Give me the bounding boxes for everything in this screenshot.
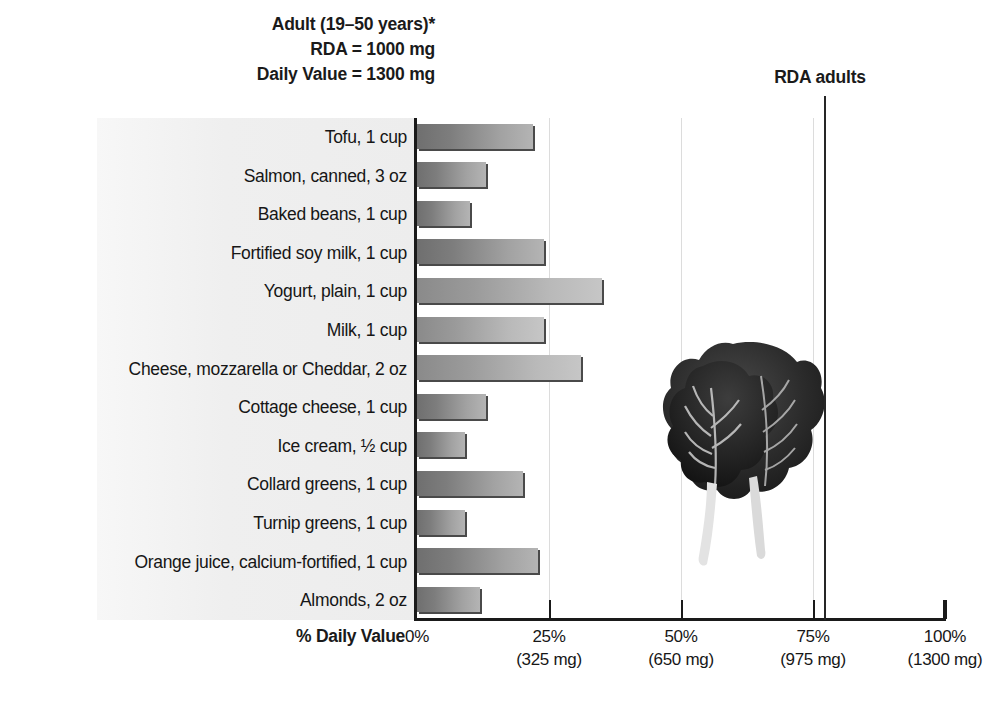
x-tick-75 (813, 600, 815, 619)
bar-baked-beans-1-cup (417, 201, 470, 226)
chart-header: Adult (19–50 years)* RDA = 1000 mg Daily… (60, 12, 435, 87)
calcium-daily-value-chart: Adult (19–50 years)* RDA = 1000 mg Daily… (0, 0, 1006, 705)
x-tick-milligrams: (1300 mg) (885, 648, 1005, 671)
bar-yogurt-plain-1-cup (417, 278, 602, 303)
x-axis-line (414, 618, 945, 621)
bar-cottage-cheese-1-cup (417, 394, 486, 419)
header-line-adult: Adult (19–50 years)* (60, 12, 435, 37)
bar-collard-greens-1-cup (417, 471, 523, 496)
bar-ice-cream-cup (417, 432, 465, 457)
x-tick-milligrams: (325 mg) (489, 648, 609, 671)
header-line-daily-value: Daily Value = 1300 mg (60, 62, 435, 87)
collard-greens-image (645, 336, 830, 576)
x-tick-milligrams: (650 mg) (621, 648, 741, 671)
x-tick-label-25: 25%(325 mg) (489, 626, 609, 671)
x-tick-percent: 50% (621, 626, 741, 648)
bar-almonds-2-oz (417, 587, 480, 612)
x-tick-label-50: 50%(650 mg) (621, 626, 741, 671)
rda-reference-line (824, 96, 827, 620)
category-label: Milk, 1 cup (77, 320, 407, 341)
bar-turnip-greens-1-cup (417, 510, 465, 535)
x-tick-label-75: 75%(975 mg) (753, 626, 873, 671)
bar-fortified-soy-milk-1-cup (417, 239, 544, 264)
x-tick-percent: 100% (885, 626, 1005, 648)
rda-adults-label: RDA adults (700, 67, 940, 88)
category-label: Cheese, mozzarella or Cheddar, 2 oz (77, 359, 407, 380)
x-tick-50 (681, 600, 683, 619)
bar-milk-1-cup (417, 317, 544, 342)
category-label: Tofu, 1 cup (77, 127, 407, 148)
x-tick-milligrams: (975 mg) (753, 648, 873, 671)
category-label: Ice cream, ½ cup (77, 436, 407, 457)
x-axis-title: % Daily Value (215, 626, 405, 647)
bar-tofu-1-cup (417, 124, 533, 149)
x-tick-percent: 25% (489, 626, 609, 648)
category-label: Salmon, canned, 3 oz (77, 166, 407, 187)
collard-greens-illustration (645, 336, 830, 576)
category-label: Turnip greens, 1 cup (77, 513, 407, 534)
x-tick-100 (945, 600, 947, 619)
category-label: Collard greens, 1 cup (77, 474, 407, 495)
bar-salmon-canned-3-oz (417, 162, 486, 187)
category-label: Yogurt, plain, 1 cup (77, 281, 407, 302)
header-line-rda: RDA = 1000 mg (60, 37, 435, 62)
bar-orange-juice-calcium-fortified-1-cup (417, 548, 538, 573)
leaf-stem-front (699, 482, 717, 566)
x-tick-25 (549, 600, 551, 619)
x-tick-label-100: 100%(1300 mg) (885, 626, 1005, 671)
category-label: Baked beans, 1 cup (77, 204, 407, 225)
category-label: Almonds, 2 oz (77, 590, 407, 611)
category-label: Orange juice, calcium-fortified, 1 cup (77, 552, 407, 573)
category-label: Fortified soy milk, 1 cup (77, 243, 407, 264)
category-label: Cottage cheese, 1 cup (77, 397, 407, 418)
bar-cheese-mozzarella-or-cheddar-2-oz (417, 355, 581, 380)
x-tick-percent: 75% (753, 626, 873, 648)
